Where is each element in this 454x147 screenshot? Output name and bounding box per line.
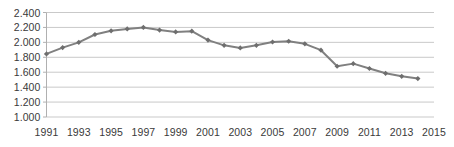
data-point-2013: [399, 74, 404, 79]
x-axis-label-2015: 2015: [422, 126, 446, 138]
data-point-2004: [254, 43, 259, 48]
data-point-1992: [60, 45, 65, 50]
data-point-2005: [270, 39, 275, 44]
y-tick-marks-group: [43, 13, 47, 118]
data-point-1991: [44, 51, 49, 56]
x-axis-label-1995: 1995: [99, 126, 123, 138]
y-axis-label-1.200: 1.200: [14, 96, 41, 108]
y-axis-label-1.600: 1.600: [14, 66, 41, 78]
chart-plot-area: [0, 0, 454, 147]
x-axis-label-2011: 2011: [358, 126, 381, 138]
x-axis-label-2013: 2013: [390, 126, 414, 138]
x-axis-label-1999: 1999: [164, 126, 188, 138]
data-point-1998: [157, 27, 162, 32]
data-point-2010: [351, 61, 356, 66]
data-point-2012: [383, 71, 388, 76]
x-axis-label-1993: 1993: [67, 126, 91, 138]
x-axis-label-2001: 2001: [196, 126, 220, 138]
data-point-1999: [173, 29, 178, 34]
x-axis-label-2007: 2007: [293, 126, 317, 138]
y-axis-label-1.800: 1.800: [14, 51, 41, 63]
x-axis-label-1991: 1991: [35, 126, 59, 138]
x-axis-label-2003: 2003: [228, 126, 252, 138]
x-axis-label-1997: 1997: [132, 126, 156, 138]
series-line-1: [47, 27, 418, 78]
y-axis-label-2.000: 2.000: [14, 36, 41, 48]
data-point-2011: [367, 66, 372, 71]
data-point-2014: [415, 76, 420, 81]
data-point-2006: [286, 39, 291, 44]
y-axis-label-2.400: 2.400: [14, 7, 41, 19]
y-axis-label-1.400: 1.400: [14, 81, 41, 93]
data-point-2002: [222, 43, 227, 48]
line-chart: 1.0001.2001.4001.6001.8002.0002.2002.400…: [0, 0, 454, 147]
y-axis-label-1.000: 1.000: [14, 111, 41, 123]
y-axis-label-2.200: 2.200: [14, 21, 41, 33]
x-axis-label-2005: 2005: [261, 126, 285, 138]
data-point-1997: [141, 25, 146, 30]
data-point-1995: [108, 28, 113, 33]
x-axis-label-2009: 2009: [325, 126, 349, 138]
gridlines-group: [47, 13, 435, 118]
data-point-2003: [238, 45, 243, 50]
